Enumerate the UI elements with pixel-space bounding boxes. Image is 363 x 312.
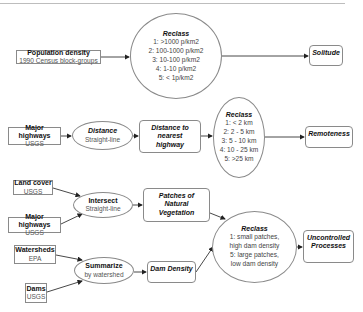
land-cover-input: Land cover USGS — [13, 180, 53, 195]
node-title: Summarize — [85, 262, 122, 270]
reclass-line: 1: small patches, — [230, 233, 279, 242]
distance-process: Distance Straight-line — [72, 121, 133, 150]
reclass-line: 3: 5 - 10 km — [222, 137, 257, 146]
reclass-line: 3: 10-100 p/km2 — [152, 56, 200, 65]
reclass-line: 5: large patches, — [230, 251, 279, 260]
node-subtitle: by watershed — [84, 271, 123, 279]
node-subtitle: USGS — [27, 293, 46, 301]
reclass-processes-node: Reclass 1: small patches, high dam densi… — [212, 211, 297, 283]
reclass-line: 4: 1-10 p/km2 — [156, 65, 196, 74]
node-title: Population density — [27, 49, 90, 57]
reclass-population-node: Reclass 1: >1000 p/km2 2: 100-1000 p/km2… — [130, 13, 222, 99]
node-title: Reclass — [226, 111, 252, 119]
reclass-line: low dam density — [231, 260, 278, 269]
reclass-line: 2: 2 - 5 km — [223, 128, 254, 137]
node-title: Dams — [26, 285, 45, 293]
node-subtitle: USGS — [25, 229, 44, 237]
reclass-line: 1: >1000 p/km2 — [153, 38, 199, 47]
summarize-process: Summarize by watershed — [74, 257, 134, 284]
reclass-line: 2: 100-1000 p/km2 — [149, 47, 204, 56]
workflow-diagram: Population density 1990 Census block-gro… — [0, 0, 363, 312]
dams-input: Dams USGS — [25, 283, 47, 303]
major-highways-input: Major highways USGS — [8, 127, 61, 145]
natural-vegetation-patches-node: Patches of Natural Vegetation — [143, 188, 210, 222]
node-subtitle: USGS — [25, 140, 44, 148]
reclass-line: 5: < 1p/km2 — [159, 74, 194, 83]
node-title: Remoteness — [308, 130, 350, 138]
node-subtitle: EPA — [29, 255, 42, 263]
node-title: Patches of Natural Vegetation — [144, 192, 209, 217]
node-subtitle: USGS — [24, 188, 43, 196]
dam-density-node: Dam Density — [147, 261, 196, 283]
node-subtitle: Straight-line — [85, 136, 120, 144]
node-title: Solitude — [312, 49, 340, 57]
reclass-line: 5: >25 km — [224, 155, 253, 164]
node-title: Land cover — [14, 179, 51, 187]
reclass-line: high dam density — [230, 242, 280, 251]
node-title: Intersect — [88, 197, 117, 205]
intersect-process: Intersect Straight-line — [73, 192, 133, 218]
remoteness-output: Remoteness — [305, 126, 353, 148]
major-highways-input-2: Major highways USGS — [8, 217, 61, 233]
node-subtitle: Straight-line — [85, 205, 120, 213]
node-title: Major highways — [9, 213, 60, 230]
population-density-input: Population density 1990 Census block-gro… — [16, 50, 101, 64]
node-title: Reclass — [241, 225, 267, 233]
node-title: Distance to nearest highway — [140, 124, 200, 149]
reclass-line: 4: 10 - 25 km — [220, 146, 258, 155]
node-title: Distance — [88, 127, 117, 135]
node-subtitle: 1990 Census block-groups — [19, 57, 97, 65]
node-title: Uncontrolled Processes — [304, 234, 353, 251]
distance-to-highway-node: Distance to nearest highway — [139, 120, 201, 153]
node-title: Watersheds — [15, 246, 54, 254]
uncontrolled-processes-output: Uncontrolled Processes — [303, 230, 354, 263]
node-title: Dam Density — [150, 265, 192, 273]
reclass-line: 1: < 2 km — [225, 119, 252, 128]
watersheds-input: Watersheds EPA — [14, 245, 56, 264]
solitude-output: Solitude — [309, 45, 343, 66]
reclass-distance-node: Reclass 1: < 2 km 2: 2 - 5 km 3: 5 - 10 … — [213, 97, 265, 178]
node-title: Major highways — [9, 124, 60, 141]
node-title: Reclass — [163, 30, 189, 38]
